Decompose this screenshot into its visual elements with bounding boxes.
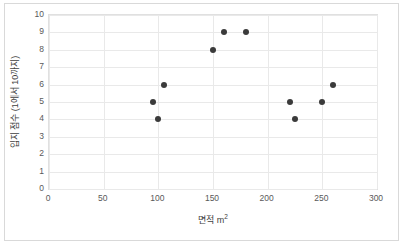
data-point [292,116,298,122]
x-axis-tick-label: 0 [28,194,68,203]
x-axis-tick-label: 250 [301,194,341,203]
gridline-vertical [49,15,50,189]
y-axis-tick-label: 4 [4,114,44,123]
x-axis-title-base: 면적 m [198,215,224,225]
data-point [319,99,325,105]
y-axis-tick-label: 8 [4,45,44,54]
gridline-vertical [213,15,214,189]
data-point [150,99,156,105]
data-point [210,47,216,53]
x-axis-tick-label: 200 [247,194,287,203]
data-point [330,82,336,88]
y-axis-tick-label: 1 [4,166,44,175]
y-axis-tick-label: 7 [4,62,44,71]
data-point [161,82,167,88]
data-point [287,99,293,105]
x-axis-tick-labels: 050100150200250300 [48,194,378,208]
x-axis-title-superscript: 2 [224,213,228,220]
x-axis-tick-label: 300 [356,194,396,203]
y-axis-tick-label: 6 [4,79,44,88]
gridline-vertical [104,15,105,189]
gridline-horizontal [49,189,377,190]
y-axis-tick-label: 5 [4,97,44,106]
y-axis-tick-label: 3 [4,132,44,141]
y-axis-tick-labels: 012345678910 [0,14,44,190]
y-axis-tick-label: 2 [4,149,44,158]
y-axis-tick-label: 0 [4,184,44,193]
x-axis-title: 면적 m2 [48,213,378,226]
gridline-vertical [377,15,378,189]
x-axis-tick-label: 150 [192,194,232,203]
gridline-vertical [268,15,269,189]
x-axis-tick-label: 100 [137,194,177,203]
x-axis-tick-label: 50 [83,194,123,203]
gridline-vertical [158,15,159,189]
data-point [243,29,249,35]
data-point [155,116,161,122]
plot-area [48,14,378,190]
chart-figure: 입지 점수 (1에서 10까지) 012345678910 0501001502… [0,0,403,248]
y-axis-tick-label: 9 [4,27,44,36]
data-point [221,29,227,35]
y-axis-tick-label: 10 [4,10,44,19]
